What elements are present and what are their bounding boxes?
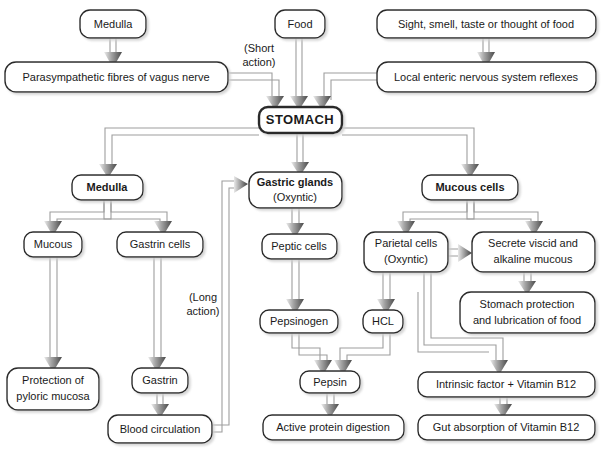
label-gut-absorption: Gut absorption of Vitamin B12 [433, 421, 580, 433]
label-local-reflexes: Local enteric nervous system reflexes [394, 71, 579, 83]
label-vagus: Parasympathetic fibres of vagus nerve [22, 71, 209, 83]
label-protection-line2: pyloric mucosa [16, 390, 90, 402]
label-stomach: STOMACH [266, 112, 334, 127]
label-gastric-glands-line1: Gastric glands [257, 176, 333, 188]
label-gastrin-cells: Gastrin cells [130, 238, 191, 250]
label-stomach-protection-line2: and lubrication of food [473, 314, 581, 326]
label-secrete-line2: alkaline mucous [494, 253, 573, 265]
annotation-short-action-line1: (Short [244, 42, 274, 54]
label-mucous: Mucous [34, 238, 73, 250]
label-pepsinogen: Pepsinogen [270, 315, 328, 327]
label-pepsin: Pepsin [313, 376, 347, 388]
label-hcl: HCL [372, 315, 394, 327]
flowchart-canvas: Medulla Food Sight, smell, taste or thou… [0, 0, 602, 456]
label-protection-line1: Protection of [22, 374, 85, 386]
label-intrinsic-factor: Intrinsic factor + Vitamin B12 [436, 378, 576, 390]
label-gastrin: Gastrin [142, 374, 177, 386]
label-active-protein: Active protein digestion [276, 421, 390, 433]
label-gastric-glands-line2: (Oxyntic) [273, 191, 317, 203]
label-stomach-protection-line1: Stomach protection [480, 298, 575, 310]
label-medulla-top: Medulla [94, 18, 133, 30]
label-blood-circulation: Blood circulation [120, 423, 201, 435]
label-parietal-line2: (Oxyntic) [384, 253, 428, 265]
flowchart-svg: Medulla Food Sight, smell, taste or thou… [0, 0, 602, 456]
label-sight-smell: Sight, smell, taste or thought of food [398, 18, 574, 30]
annotation-long-action-line2: action) [186, 305, 219, 317]
label-peptic-cells: Peptic cells [271, 240, 327, 252]
label-parietal-line1: Parietal cells [375, 237, 438, 249]
label-medulla-mid: Medulla [87, 181, 129, 193]
annotation-short-action-line2: action) [242, 56, 275, 68]
annotation-long-action-line1: (Long [189, 291, 217, 303]
label-secrete-line1: Secrete viscid and [488, 237, 578, 249]
label-food: Food [287, 18, 312, 30]
label-mucous-cells: Mucous cells [435, 181, 504, 193]
